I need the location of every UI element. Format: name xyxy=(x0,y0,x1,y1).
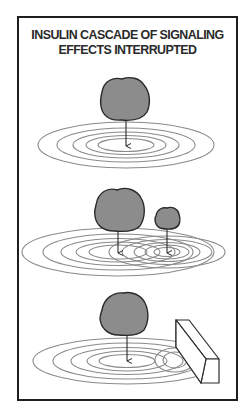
panel-single-signal xyxy=(38,78,214,168)
panel-overlapping-signals xyxy=(22,188,225,276)
diagram-illustration xyxy=(0,0,251,416)
insulin-blob-large-icon xyxy=(95,188,145,231)
insulin-blob-small-icon xyxy=(155,207,180,229)
panel-interrupted-signal xyxy=(33,292,221,384)
insulin-blob-icon xyxy=(101,78,150,121)
barrier-block-icon xyxy=(176,320,219,383)
insulin-blob-icon xyxy=(100,292,148,335)
